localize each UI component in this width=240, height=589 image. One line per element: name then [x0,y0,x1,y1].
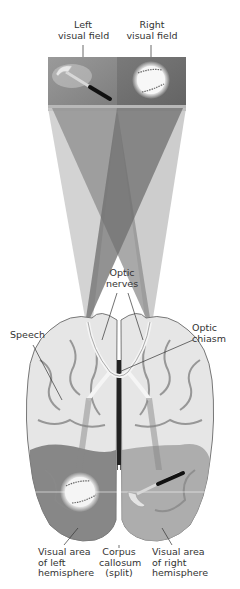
label-speech: Speech [10,330,50,341]
baseball-icon [60,472,100,512]
label-optic-chiasm: Optic chiasm [192,323,232,344]
label-line: nerves [102,279,142,290]
label-line: Corpus [99,547,139,558]
label-line: hemisphere [152,568,214,579]
label-line: Speech [10,330,50,341]
visual-field-panel [48,45,186,105]
label-line: Optic [192,323,232,334]
label-optic-nerves: Optic nerves [102,268,142,289]
label-visual-area-left: Visual area of left hemisphere [38,547,98,579]
label-line: Right [124,20,180,31]
brain [20,313,220,545]
label-line: Visual area [38,547,98,558]
baseball-icon [132,61,170,99]
label-left-visual-field: Left visual field [58,20,108,41]
label-line: visual field [58,31,108,42]
label-line: Visual area [152,547,214,558]
visual-area-right-region [122,444,210,541]
label-line: Optic [102,268,142,279]
diagram-canvas [0,0,240,589]
label-corpus-callosum: Corpus callosum (split) [99,547,139,579]
label-right-visual-field: Right visual field [124,20,180,41]
label-line: visual field [124,31,180,42]
label-line: hemisphere [38,568,98,579]
label-line: Left [58,20,108,31]
label-visual-area-right: Visual area of right hemisphere [152,547,214,579]
label-line: chiasm [192,334,232,345]
label-line: (split) [99,568,139,579]
